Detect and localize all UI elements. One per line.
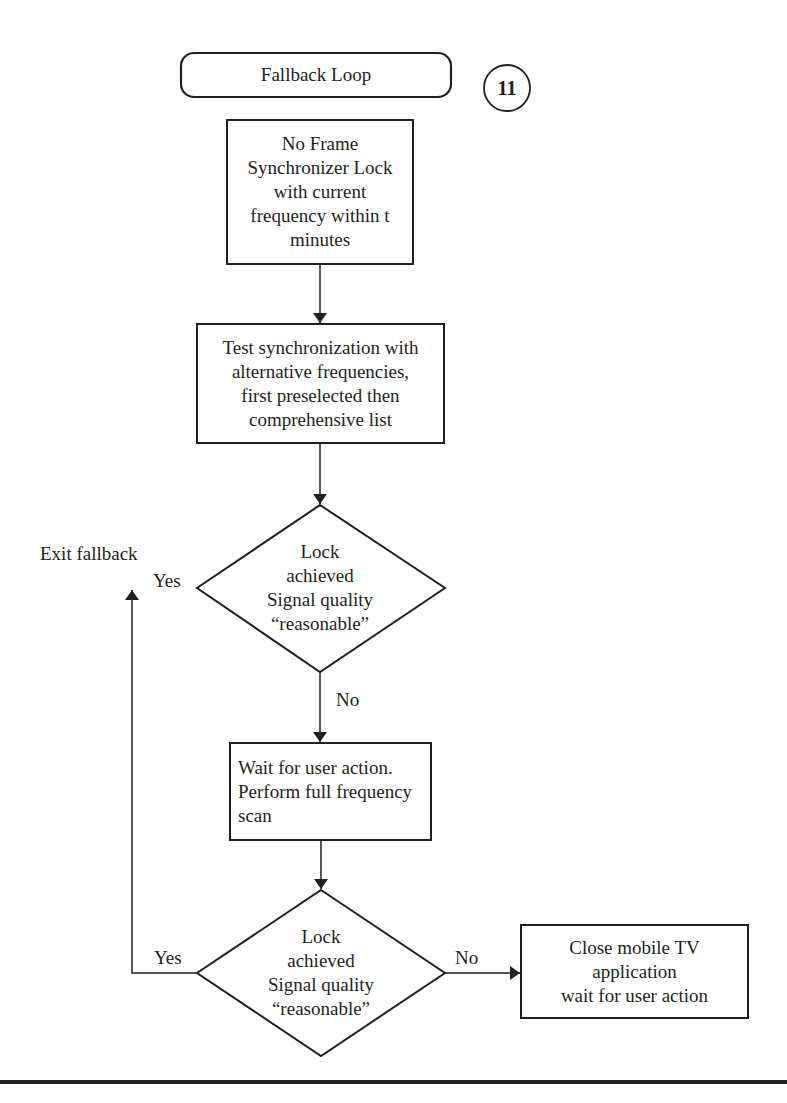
no-lock-text: No Frame Synchronizer Lock with current … <box>227 120 413 264</box>
test-sync-text: Test synchronization with alternative fr… <box>197 324 444 443</box>
decision2-line: “reasonable” <box>241 997 401 1021</box>
decision1-line: “reasonable” <box>240 612 400 636</box>
decision1-text: Lock achieved Signal quality “reasonable… <box>240 530 400 646</box>
close-app-line: Close mobile TV <box>521 936 748 960</box>
no-lock-line: frequency within t <box>227 204 413 228</box>
wait-scan-line: Wait for user action. <box>238 756 428 780</box>
test-sync-line: alternative frequencies, <box>197 360 444 384</box>
no-lock-line: No Frame <box>227 132 413 156</box>
decision1-line: achieved <box>240 564 400 588</box>
test-sync-line: first preselected then <box>197 384 444 408</box>
no-lock-line: with current <box>227 180 413 204</box>
no-lock-line: minutes <box>227 228 413 252</box>
start-label-container: Fallback Loop <box>181 53 451 97</box>
no-lock-line: Synchronizer Lock <box>227 156 413 180</box>
arrow-decision2-yes-exit <box>132 590 197 973</box>
decision2-yes-label: Yes <box>154 945 182 970</box>
test-sync-line: Test synchronization with <box>197 336 444 360</box>
test-sync-line: comprehensive list <box>197 408 444 432</box>
decision1-yes-label: Yes <box>153 568 181 593</box>
exit-fallback-label: Exit fallback <box>40 541 138 566</box>
close-app-line: application <box>521 960 748 984</box>
close-app-text: Close mobile TV application wait for use… <box>521 925 748 1018</box>
decision2-no-label: No <box>455 945 478 970</box>
decision2-line: achieved <box>241 949 401 973</box>
wait-scan-line: Perform full frequency <box>238 780 428 804</box>
decision1-line: Signal quality <box>240 588 400 612</box>
decision1-no-label: No <box>336 687 359 712</box>
decision2-line: Lock <box>241 925 401 949</box>
wait-scan-line: scan <box>238 804 428 828</box>
start-label: Fallback Loop <box>181 63 451 87</box>
decision2-text: Lock achieved Signal quality “reasonable… <box>241 915 401 1031</box>
decision1-line: Lock <box>240 540 400 564</box>
wait-scan-text: Wait for user action. Perform full frequ… <box>238 743 428 840</box>
close-app-line: wait for user action <box>521 984 748 1008</box>
step-badge: 11 <box>483 64 531 112</box>
decision2-line: Signal quality <box>241 973 401 997</box>
